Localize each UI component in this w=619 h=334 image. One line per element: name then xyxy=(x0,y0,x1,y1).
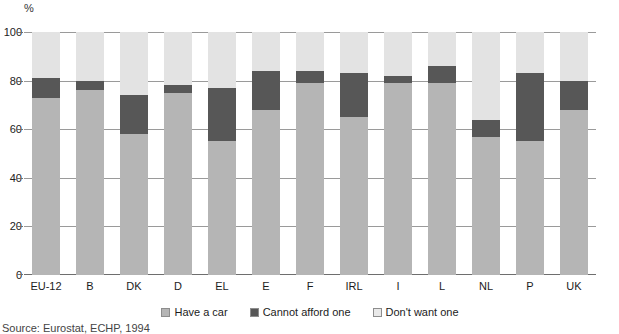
bar-segment-cannot-afford-one[interactable] xyxy=(76,81,103,91)
bar-segment-have-a-car[interactable] xyxy=(428,83,455,275)
bar-segment-dont-want-one[interactable] xyxy=(340,32,367,73)
bar-segment-have-a-car[interactable] xyxy=(384,83,411,275)
bar-segment-cannot-afford-one[interactable] xyxy=(296,71,323,83)
bar-segment-have-a-car[interactable] xyxy=(516,141,543,275)
stacked-bar[interactable] xyxy=(120,32,147,275)
bar-segment-have-a-car[interactable] xyxy=(296,83,323,275)
x-axis-label-el: EL xyxy=(200,280,244,296)
bar-segment-cannot-afford-one[interactable] xyxy=(472,120,499,137)
y-tick-0: 0 xyxy=(0,269,22,281)
stacked-bar[interactable] xyxy=(164,32,191,275)
bar-segment-dont-want-one[interactable] xyxy=(560,32,587,81)
bar-segment-cannot-afford-one[interactable] xyxy=(252,71,279,110)
tick-mark-80 xyxy=(17,81,23,82)
bar-slot xyxy=(376,32,420,275)
bar-group xyxy=(24,32,596,275)
bar-slot xyxy=(552,32,596,275)
x-axis-label-f: F xyxy=(288,280,332,296)
tick-mark-100 xyxy=(17,32,23,33)
bar-slot xyxy=(332,32,376,275)
bar-segment-dont-want-one[interactable] xyxy=(32,32,59,78)
bar-segment-cannot-afford-one[interactable] xyxy=(516,73,543,141)
x-axis-label-dk: DK xyxy=(112,280,156,296)
stacked-bar[interactable] xyxy=(516,32,543,275)
x-axis-label-l: L xyxy=(420,280,464,296)
bar-slot xyxy=(420,32,464,275)
legend-item-don-t-want-one[interactable]: Don't want one xyxy=(373,306,459,318)
x-axis-labels: EU-12BDKDELEFIRLILNLPUK xyxy=(24,280,596,296)
bar-slot xyxy=(200,32,244,275)
stacked-bar[interactable] xyxy=(472,32,499,275)
bar-segment-cannot-afford-one[interactable] xyxy=(428,66,455,83)
bar-slot xyxy=(112,32,156,275)
legend-label: Have a car xyxy=(174,306,227,318)
bar-segment-dont-want-one[interactable] xyxy=(296,32,323,71)
y-axis-unit-label: % xyxy=(24,2,34,14)
bar-segment-have-a-car[interactable] xyxy=(76,90,103,275)
stacked-bar-chart: % 100 80 60 40 20 0 EU-12BDKDELEFIRLILNL… xyxy=(0,0,619,334)
stacked-bar[interactable] xyxy=(384,32,411,275)
bar-segment-cannot-afford-one[interactable] xyxy=(560,81,587,110)
x-axis-label-eu-12: EU-12 xyxy=(24,280,68,296)
bar-segment-have-a-car[interactable] xyxy=(472,137,499,276)
bar-slot xyxy=(288,32,332,275)
bar-slot xyxy=(68,32,112,275)
bar-segment-have-a-car[interactable] xyxy=(560,110,587,275)
bar-segment-cannot-afford-one[interactable] xyxy=(164,85,191,92)
bar-segment-dont-want-one[interactable] xyxy=(516,32,543,73)
legend-swatch-icon xyxy=(373,308,382,317)
bar-segment-have-a-car[interactable] xyxy=(164,93,191,275)
legend-swatch-icon xyxy=(250,308,259,317)
bar-slot xyxy=(464,32,508,275)
bar-segment-dont-want-one[interactable] xyxy=(208,32,235,88)
x-axis-label-nl: NL xyxy=(464,280,508,296)
bar-segment-have-a-car[interactable] xyxy=(32,98,59,275)
stacked-bar[interactable] xyxy=(296,32,323,275)
bar-segment-dont-want-one[interactable] xyxy=(384,32,411,76)
legend-item-cannot-afford-one[interactable]: Cannot afford one xyxy=(250,306,351,318)
bar-segment-dont-want-one[interactable] xyxy=(252,32,279,71)
x-axis-label-p: P xyxy=(508,280,552,296)
legend-label: Cannot afford one xyxy=(263,306,351,318)
stacked-bar[interactable] xyxy=(208,32,235,275)
stacked-bar[interactable] xyxy=(428,32,455,275)
bar-segment-cannot-afford-one[interactable] xyxy=(340,73,367,117)
x-axis-label-b: B xyxy=(68,280,112,296)
x-axis-label-d: D xyxy=(156,280,200,296)
bar-segment-have-a-car[interactable] xyxy=(120,134,147,275)
bar-segment-cannot-afford-one[interactable] xyxy=(32,78,59,97)
bar-segment-cannot-afford-one[interactable] xyxy=(120,95,147,134)
stacked-bar[interactable] xyxy=(560,32,587,275)
bar-segment-have-a-car[interactable] xyxy=(340,117,367,275)
x-axis-label-i: I xyxy=(376,280,420,296)
tick-mark-60 xyxy=(17,129,23,130)
chart-legend: Have a carCannot afford oneDon't want on… xyxy=(24,306,596,318)
bar-slot xyxy=(24,32,68,275)
stacked-bar[interactable] xyxy=(76,32,103,275)
bar-slot xyxy=(156,32,200,275)
bar-segment-have-a-car[interactable] xyxy=(208,141,235,275)
bar-segment-have-a-car[interactable] xyxy=(252,110,279,275)
tick-mark-40 xyxy=(17,178,23,179)
bar-segment-dont-want-one[interactable] xyxy=(76,32,103,81)
bar-segment-cannot-afford-one[interactable] xyxy=(208,88,235,141)
stacked-bar[interactable] xyxy=(32,32,59,275)
x-axis-label-irl: IRL xyxy=(332,280,376,296)
bar-segment-cannot-afford-one[interactable] xyxy=(384,76,411,83)
stacked-bar[interactable] xyxy=(340,32,367,275)
bar-slot xyxy=(508,32,552,275)
source-note: Source: Eurostat, ECHP, 1994 xyxy=(2,322,150,334)
stacked-bar[interactable] xyxy=(252,32,279,275)
x-axis-label-e: E xyxy=(244,280,288,296)
x-axis-label-uk: UK xyxy=(552,280,596,296)
bar-segment-dont-want-one[interactable] xyxy=(164,32,191,85)
plot-area xyxy=(24,32,596,275)
legend-label: Don't want one xyxy=(386,306,459,318)
legend-swatch-icon xyxy=(161,308,170,317)
tick-mark-0 xyxy=(17,274,23,275)
bar-segment-dont-want-one[interactable] xyxy=(120,32,147,95)
bar-segment-dont-want-one[interactable] xyxy=(428,32,455,66)
legend-item-have-a-car[interactable]: Have a car xyxy=(161,306,227,318)
bar-segment-dont-want-one[interactable] xyxy=(472,32,499,119)
y-axis-tick-labels: 100 80 60 40 20 0 xyxy=(0,32,22,275)
